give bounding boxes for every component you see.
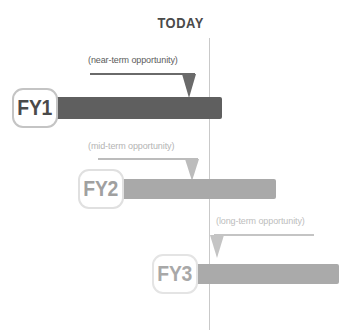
bar-fy1 bbox=[44, 97, 222, 119]
roadmap-diagram: TODAY (near-term opportunity) FY1 (mid-t… bbox=[0, 0, 352, 335]
annotation-arrow-mid-term bbox=[185, 159, 199, 181]
bar-fy2 bbox=[110, 179, 276, 199]
bar-fy3 bbox=[186, 264, 339, 284]
annotation-line-long-term bbox=[214, 234, 314, 236]
fy-chip-fy3: FY3 bbox=[152, 254, 198, 294]
annotation-near-term: (near-term opportunity) bbox=[88, 55, 178, 65]
fy-chip-label-fy3: FY3 bbox=[158, 263, 193, 285]
annotation-mid-term: (mid-term opportunity) bbox=[88, 141, 174, 151]
fy-chip-fy2: FY2 bbox=[78, 169, 124, 209]
annotation-arrow-long-term bbox=[210, 235, 224, 258]
annotation-line-near-term bbox=[90, 73, 195, 75]
annotation-arrow-near-term bbox=[182, 74, 196, 98]
annotation-line-mid-term bbox=[98, 158, 198, 160]
fy-chip-fy1: FY1 bbox=[12, 88, 58, 128]
fy-chip-label-fy2: FY2 bbox=[84, 178, 119, 200]
annotation-long-term: (long-term opportunity) bbox=[216, 216, 305, 226]
today-label: TODAY bbox=[29, 14, 332, 31]
fy-chip-label-fy1: FY1 bbox=[18, 97, 53, 119]
